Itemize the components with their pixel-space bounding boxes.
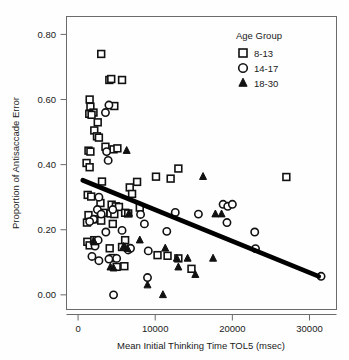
data-point [98, 210, 105, 217]
data-point [137, 211, 144, 218]
data-point [109, 206, 116, 213]
data-point [99, 178, 106, 185]
data-point [106, 245, 113, 252]
data-point [88, 111, 95, 118]
x-axis-label: Mean Initial Thinking Time TOL5 (msec) [117, 340, 285, 351]
data-point [102, 228, 109, 235]
data-point [251, 228, 258, 235]
y-tick-label: 0.00 [38, 289, 57, 300]
data-point [94, 119, 101, 126]
x-tick-group: 0100002000030000 [75, 315, 322, 335]
data-point [175, 263, 182, 270]
data-point [109, 220, 116, 227]
legend-label-18-30: 18-30 [254, 78, 278, 89]
chart-canvas: 0.000.200.400.600.80 Proportion of Antis… [0, 0, 349, 360]
data-point [110, 291, 117, 298]
data-point [163, 228, 170, 235]
data-point [162, 244, 169, 251]
data-point [141, 220, 148, 227]
data-point [154, 252, 161, 259]
data-point [145, 247, 152, 254]
data-point [104, 157, 111, 164]
y-axis-label: Proportion of Antisaccade Error [10, 97, 21, 229]
legend: Age Group 8-1314-1718-30 [236, 30, 282, 89]
data-point [95, 257, 102, 264]
data-point [103, 148, 110, 155]
data-point [153, 173, 160, 180]
data-point [108, 76, 115, 83]
data-point [159, 291, 166, 298]
data-point [144, 281, 151, 288]
data-point [121, 263, 128, 270]
data-point [175, 165, 182, 172]
data-point [167, 175, 174, 182]
legend-label-14-17: 14-17 [254, 63, 278, 74]
legend-marker-8-13 [239, 49, 247, 57]
y-tick-label: 0.20 [38, 224, 57, 235]
x-tick-label: 30000 [296, 323, 322, 334]
data-point [114, 145, 121, 152]
data-point [123, 147, 130, 154]
data-point [105, 255, 112, 262]
x-axis: 0100002000030000 Mean Initial Thinking T… [67, 315, 337, 352]
data-point [86, 218, 93, 225]
x-tick-label: 10000 [142, 323, 168, 334]
data-point [212, 210, 219, 217]
data-point [223, 219, 230, 226]
data-point [98, 51, 105, 58]
data-point [88, 193, 95, 200]
data-point [113, 255, 120, 262]
legend-marker-14-17 [239, 64, 248, 73]
data-point [119, 77, 126, 84]
data-point [184, 254, 191, 261]
data-point [96, 134, 103, 141]
scatter-plot-figure: 0.000.200.400.600.80 Proportion of Antis… [0, 0, 349, 360]
data-point [118, 227, 125, 234]
y-axis: 0.000.200.400.600.80 Proportion of Antis… [10, 17, 67, 310]
legend-title: Age Group [236, 30, 282, 41]
data-point [218, 210, 225, 217]
y-tick-label: 0.80 [38, 29, 57, 40]
data-point [129, 191, 136, 198]
data-point [200, 173, 207, 180]
legend-label-8-13: 8-13 [254, 48, 273, 59]
data-point [122, 237, 129, 244]
x-tick-label: 20000 [219, 323, 245, 334]
data-point [95, 194, 102, 201]
data-points-group [83, 51, 325, 299]
y-tick-group: 0.000.200.400.600.80 [38, 29, 67, 300]
y-tick-label: 0.40 [38, 159, 57, 170]
data-point [88, 253, 95, 260]
data-point [134, 178, 141, 185]
data-point [188, 265, 195, 272]
data-point [195, 210, 202, 217]
data-point [87, 148, 94, 155]
data-point [86, 96, 93, 103]
data-point [102, 109, 109, 116]
legend-entries: 8-1314-1718-30 [239, 48, 279, 89]
legend-marker-18-30 [239, 78, 247, 86]
data-point [105, 101, 112, 108]
data-point [136, 236, 143, 243]
data-point [283, 174, 290, 181]
data-point [86, 164, 93, 171]
data-point [164, 252, 171, 259]
x-tick-label: 0 [75, 323, 80, 334]
data-point [210, 254, 217, 261]
y-tick-label: 0.60 [38, 94, 57, 105]
data-point [229, 201, 236, 208]
